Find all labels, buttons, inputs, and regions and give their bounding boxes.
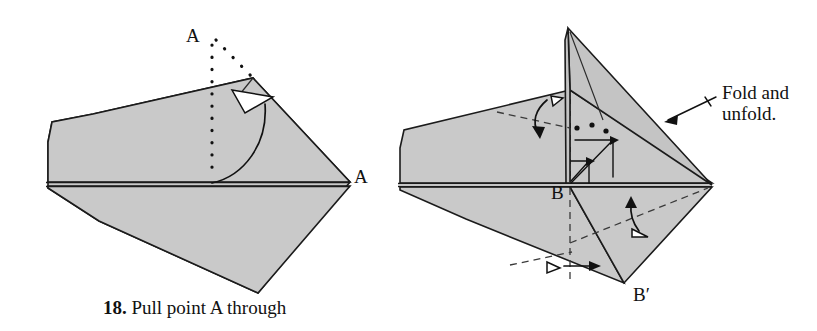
caption-step-text: Pull point A through (132, 297, 287, 318)
left-dotted-fold-diagonal (216, 40, 253, 78)
origami-instruction-page: A A B B′ Fold and unfold. 18. Pull point… (0, 0, 817, 331)
right-paper-upper-left-panel (400, 90, 570, 183)
right-figure-group (398, 28, 716, 283)
point-label-b: B (551, 182, 564, 203)
caption-step-number: 18. (103, 297, 127, 318)
left-paper-upper-panel (48, 78, 350, 182)
right-fold-arrow-lowerleft-triangle (547, 262, 560, 273)
fold-annotation-line-2: unfold. (722, 103, 789, 124)
step-caption: 18. Pull point A through (103, 297, 286, 318)
right-raised-triangle-flap-left (565, 28, 570, 183)
fold-and-unfold-annotation: Fold and unfold. (722, 82, 789, 125)
origami-diagram-canvas (0, 0, 817, 331)
left-figure-group (46, 40, 350, 293)
right-alignment-dot-2 (589, 122, 594, 127)
left-paper-lower-panel (48, 186, 350, 293)
fold-annotation-line-1: Fold and (722, 82, 789, 103)
point-label-a-right: A (354, 166, 368, 187)
right-alignment-dot-1 (574, 125, 579, 130)
right-alignment-dot-3 (603, 128, 608, 133)
point-label-b-prime: B′ (633, 284, 650, 305)
point-label-a-top: A (186, 25, 200, 46)
right-leader-arrowhead (664, 115, 678, 125)
